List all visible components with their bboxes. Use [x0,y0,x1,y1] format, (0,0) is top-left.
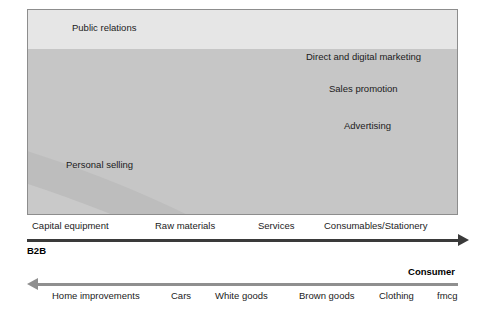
band-personal-selling [28,10,457,214]
chart-plot-area: Public relations Direct and digital mark… [27,9,458,215]
band-label-sales-promotion: Sales promotion [329,83,398,95]
b2b-axis: Capital equipmentRaw materialsServicesCo… [27,220,469,260]
band-label-public-relations: Public relations [72,22,136,34]
arrow-right-icon [458,234,469,246]
tick-label: fmcg [437,290,458,301]
tick-label: Clothing [379,290,414,301]
band-label-advertising: Advertising [344,120,391,132]
band-label-personal-selling: Personal selling [66,159,133,171]
b2b-tick-labels: Capital equipmentRaw materialsServicesCo… [27,220,458,235]
arrow-left-icon [27,278,38,290]
tick-label: Consumables/Stationery [324,220,428,231]
band-label-direct-and-digital-marketing: Direct and digital marketing [306,51,421,63]
tick-label: Cars [171,290,191,301]
b2b-axis-caption: B2B [27,245,46,256]
b2b-axis-line [27,239,458,242]
tick-label: Home improvements [52,290,140,301]
consumer-axis-caption: Consumer [408,266,455,277]
tick-label: Capital equipment [32,220,109,231]
consumer-axis: Consumer Home improvementsCarsWhite good… [27,266,469,314]
tick-label: Services [258,220,294,231]
tick-label: White goods [215,290,268,301]
tick-label: Brown goods [299,290,354,301]
tick-label: Raw materials [155,220,215,231]
consumer-axis-line [37,283,458,286]
consumer-tick-labels: Home improvementsCarsWhite goodsBrown go… [27,290,458,305]
